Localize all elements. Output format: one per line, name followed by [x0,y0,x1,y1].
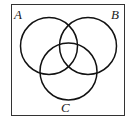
universal-set-box [12,5,125,116]
label-a: A [13,7,22,22]
circle-a [21,18,78,75]
circle-b [60,18,117,75]
venn-diagram: A B C [0,0,129,119]
circle-c [40,43,97,100]
label-b: B [111,7,119,22]
label-c: C [61,100,70,115]
